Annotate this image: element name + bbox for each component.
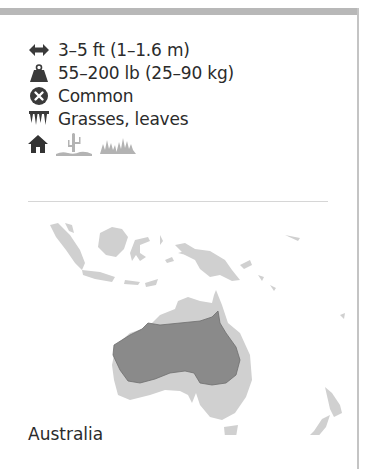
island-tasmania xyxy=(224,425,238,435)
fact-list: 3–5 ft (1–1.6 m) 55–200 lb (25–90 kg) Co… xyxy=(28,38,234,157)
fact-diet: Grasses, leaves xyxy=(28,107,234,130)
fact-diet-text: Grasses, leaves xyxy=(58,109,188,129)
status-common-icon xyxy=(28,86,50,106)
fact-status: Common xyxy=(28,84,234,107)
card-right-border xyxy=(357,8,359,469)
fact-status-text: Common xyxy=(58,86,133,106)
range-map xyxy=(0,205,357,435)
weight-icon xyxy=(28,63,50,83)
island-borneo xyxy=(98,227,128,257)
island-java xyxy=(82,270,115,282)
desert-cactus-icon xyxy=(56,132,92,156)
island-sumatra xyxy=(50,223,85,270)
home-habitat-icon xyxy=(28,135,48,153)
fact-length: 3–5 ft (1–1.6 m) xyxy=(28,38,234,61)
length-arrows-icon xyxy=(28,40,50,60)
island-sulawesi xyxy=(130,237,150,261)
habitat-icons xyxy=(28,131,234,157)
map-region-label: Australia xyxy=(28,424,103,444)
fact-length-text: 3–5 ft (1–1.6 m) xyxy=(58,40,190,60)
island-new-zealand xyxy=(325,387,342,417)
card-top-bar xyxy=(0,8,357,15)
grassland-icon xyxy=(100,134,136,154)
section-divider xyxy=(28,201,328,202)
island-new-guinea xyxy=(175,243,240,281)
fact-weight: 55–200 lb (25–90 kg) xyxy=(28,61,234,84)
fact-weight-text: 55–200 lb (25–90 kg) xyxy=(58,63,234,83)
teeth-diet-icon xyxy=(28,109,50,129)
